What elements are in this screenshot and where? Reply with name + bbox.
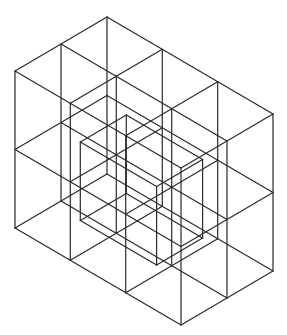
grid-line-left xyxy=(107,174,273,271)
inner-cube-edge xyxy=(80,193,126,220)
inner-cube-edge xyxy=(126,193,202,238)
isometric-grid-drawing xyxy=(0,0,287,335)
inner-cube-edge xyxy=(80,115,126,142)
inner-cube-edge xyxy=(126,115,202,160)
inner-cube-edge xyxy=(80,220,156,265)
wireframe-diagram xyxy=(0,0,287,335)
inner-cube-edge xyxy=(80,142,156,187)
grid-line-left xyxy=(107,17,273,114)
grid-line-left xyxy=(15,71,181,168)
grid-line-left xyxy=(61,44,227,141)
grid-line-left xyxy=(107,96,273,193)
